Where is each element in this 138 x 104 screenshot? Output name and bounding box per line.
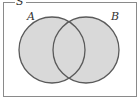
set-b-label: B	[110, 10, 119, 23]
set-a-label: A	[26, 10, 35, 23]
venn-diagram: S A B	[0, 0, 138, 104]
universe-label: S	[16, 0, 24, 8]
